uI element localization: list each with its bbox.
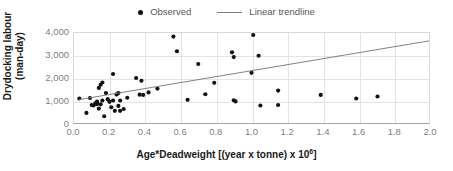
x-axis-tick-label: 0.8 [199,127,233,137]
data-point [186,98,190,102]
data-point [134,76,138,80]
y-axis-title: Drydocking labour (man-day) [2,8,26,104]
chart-legend: Observed Linear trendline [0,4,453,20]
data-point [233,99,237,103]
data-point [95,102,99,106]
data-series-layer [74,33,429,123]
data-point [139,79,143,83]
legend-item-observed: Observed [138,7,191,17]
data-point [196,62,200,66]
trendline [79,41,429,100]
data-point [232,55,236,59]
x-axis-title-main: Age*Deadweight [(year x tonne) x 10 [136,149,309,160]
x-axis-tick-label: 1.2 [270,127,304,137]
data-point [97,107,101,111]
x-axis-tick-label: 0.0 [56,127,90,137]
x-axis-title-tail: ] [313,149,316,160]
x-axis-tick-label: 2.0 [413,127,447,137]
scatter-chart: Observed Linear trendline Drydocking lab… [0,0,453,171]
data-point [175,49,179,53]
data-point [99,102,103,106]
data-point [141,93,145,97]
data-point [319,93,323,97]
data-point [138,93,142,97]
data-point [203,92,207,96]
data-point [251,33,255,37]
data-point [212,81,216,85]
y-axis-title-line1: Drydocking labour [2,8,14,104]
x-axis-tick-label: 0.2 [92,127,126,137]
data-point [146,90,150,94]
x-axis-title: Age*Deadweight [(year x tonne) x 106] [0,146,453,161]
data-point [77,96,81,100]
y-axis-tick-label: 3,000 [24,50,69,60]
legend-label-linear-trendline: Linear trendline [249,7,315,17]
legend-line-icon [217,12,242,13]
legend-item-linear-trendline: Linear trendline [217,7,315,17]
y-axis-tick-label: 2,000 [24,73,69,83]
x-axis-tick-label: 1.6 [342,127,376,137]
data-point [107,100,111,104]
legend-label-observed: Observed [150,7,191,17]
data-point [102,114,106,118]
data-point [276,89,280,93]
y-axis-tick-label: 1,000 [24,96,69,106]
data-point [100,80,104,84]
data-point [116,104,120,108]
data-point [113,109,117,113]
x-axis-tick-label: 0.6 [163,127,197,137]
x-axis-tick-label: 1.8 [377,127,411,137]
data-point [258,103,262,107]
data-point [375,94,379,98]
data-point [257,54,261,58]
data-point [276,103,280,107]
x-axis-tick-label: 1.4 [306,127,340,137]
data-point [125,96,129,100]
legend-dot-icon [138,10,143,15]
data-point [109,105,113,109]
data-point [122,107,126,111]
data-point [171,35,175,39]
data-point [100,98,104,102]
x-axis-tick-label: 0.4 [127,127,161,137]
y-axis-tick-label: 4,000 [24,27,69,37]
data-point [111,72,115,76]
x-axis-tick-label: 1.0 [235,127,269,137]
data-point [118,98,122,102]
data-point [118,109,122,113]
data-point [230,50,234,54]
data-point [84,111,88,115]
data-point [111,98,115,102]
data-point [354,96,358,100]
plot-area [73,32,430,124]
